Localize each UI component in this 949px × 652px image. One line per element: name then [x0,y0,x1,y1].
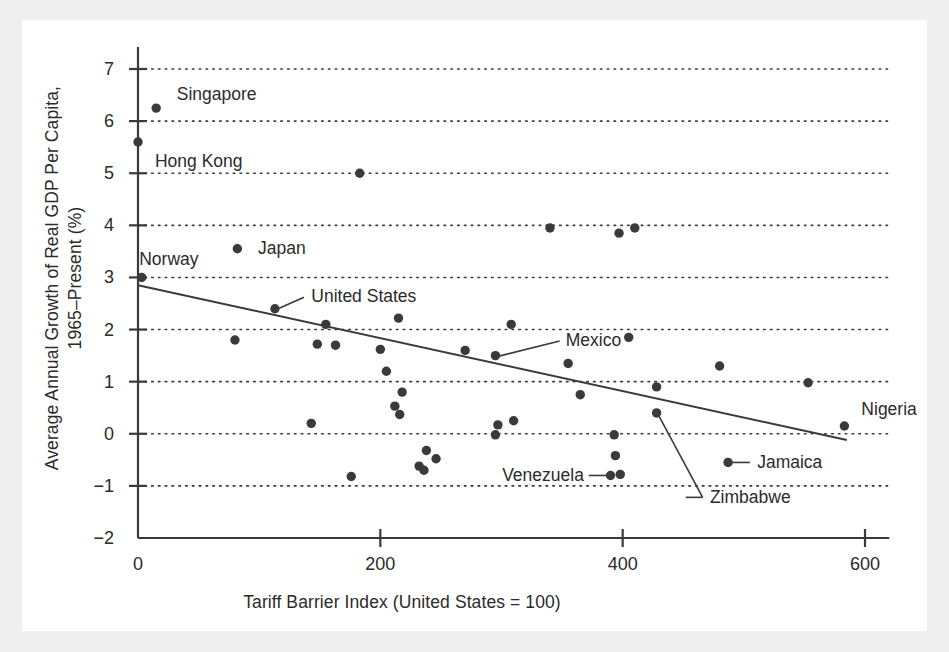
annotation-label-nigeria: Nigeria [861,399,916,420]
data-point-norway [137,273,146,282]
annotation-label-singapore: Singapore [177,84,257,105]
annotation-leader-line [658,414,703,497]
y-tick-label: 4 [104,215,114,236]
data-point [331,340,340,349]
data-point [460,346,469,355]
x-axis-title: Tariff Barrier Index (United States = 10… [22,591,782,614]
data-point [422,446,431,455]
data-point [307,419,316,428]
data-point [803,378,812,387]
data-point-singapore [151,103,160,112]
x-tick-label: 400 [608,554,638,575]
annotation-label-jamaica: Jamaica [757,452,822,473]
data-point [630,223,639,232]
annotation-label-zimbabwe: Zimbabwe [710,487,791,508]
data-point-nigeria [840,421,849,430]
x-tick-label: 200 [365,554,395,575]
data-point-japan [233,244,242,253]
data-point-united-states [270,304,279,313]
data-point [614,228,623,237]
figure-panel: Average Annual Growth of Real GDP Per Ca… [22,20,927,631]
y-tick-label: −1 [93,475,114,496]
annotation-label-venezuela: Venezuela [502,465,584,486]
data-point-hong-kong [133,137,142,146]
data-point [395,410,404,419]
y-tick-label: 6 [104,111,114,132]
data-point [491,430,500,439]
data-point [390,401,399,410]
data-point [576,390,585,399]
y-axis-title: Average Annual Growth of Real GDP Per Ca… [41,68,87,488]
data-point [419,466,428,475]
scatter-plot [22,20,927,631]
y-tick-label: 1 [104,371,114,392]
data-point [382,367,391,376]
annotation-label-hong-kong: Hong Kong [155,150,243,171]
y-tick-label: −2 [93,528,114,549]
x-tick-label: 600 [850,554,880,575]
annotation-leader-line [499,341,560,356]
data-point [715,361,724,370]
data-point [397,387,406,396]
data-point [355,169,364,178]
data-point [376,345,385,354]
data-point [563,359,572,368]
y-tick-label: 7 [104,59,114,80]
annotation-label-japan: Japan [258,238,306,259]
trend-line [138,285,847,440]
data-point [506,320,515,329]
data-point [545,223,554,232]
data-point-zimbabwe [652,408,661,417]
data-point [431,454,440,463]
data-point [493,420,502,429]
data-point-mexico [491,351,500,360]
data-point [347,472,356,481]
y-tick-label: 2 [104,319,114,340]
data-point [321,320,330,329]
annotation-label-united-states: United States [311,286,416,307]
data-point-venezuela [606,471,615,480]
annotation-leader-line [279,297,304,308]
data-point [509,416,518,425]
data-point [230,335,239,344]
data-point [313,339,322,348]
data-point-jamaica [723,458,732,467]
y-tick-label: 3 [104,267,114,288]
x-tick-label: 0 [133,554,143,575]
data-point [616,470,625,479]
data-point [624,333,633,342]
data-point [609,430,618,439]
data-point [611,451,620,460]
data-point [394,313,403,322]
annotation-label-mexico: Mexico [566,329,621,350]
y-tick-label: 0 [104,423,114,444]
annotation-label-norway: Norway [139,248,198,269]
y-tick-label: 5 [104,163,114,184]
data-point [652,382,661,391]
